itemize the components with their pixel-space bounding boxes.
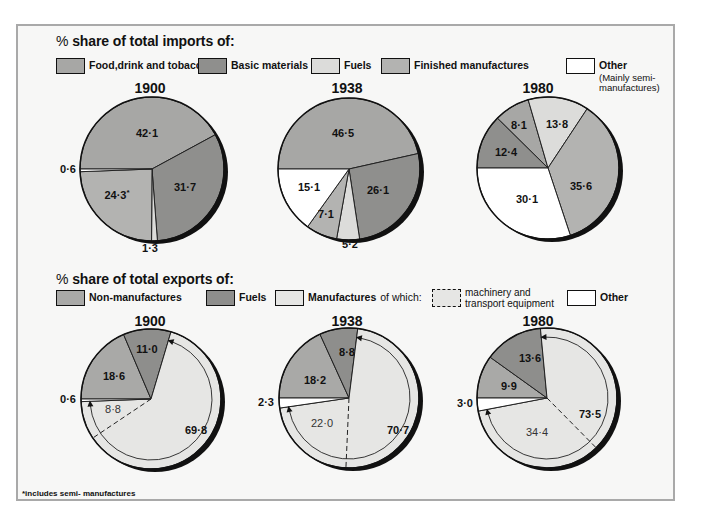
slice-label: 9·9 xyxy=(501,380,517,392)
slice-label: 18·6 xyxy=(103,370,125,382)
slice-label: 73·5 xyxy=(579,408,601,420)
machinery-label: 34·4 xyxy=(526,426,548,438)
slice-label: 12·4 xyxy=(495,146,518,158)
slice-label: 30·1 xyxy=(516,193,538,205)
slice-label: 13·8 xyxy=(546,118,568,130)
slice-label: 0·6 xyxy=(60,163,76,175)
slice-label: 42·1 xyxy=(136,127,158,139)
slice-label: 13·6 xyxy=(519,352,541,364)
slice-label: 0·6 xyxy=(60,393,76,405)
exports-pie-1980: 9·913·673·53·034·4 xyxy=(457,328,621,471)
slice-label: 31·7 xyxy=(174,181,196,193)
slice-label: 11·0 xyxy=(136,343,157,355)
imports-pie-1980: 12·48·113·835·630·1 xyxy=(477,97,623,242)
slice-label: 7·1 xyxy=(318,208,334,220)
slice-label: 8·8 xyxy=(339,346,355,358)
footnote: *includes semi- manufactures xyxy=(22,489,135,498)
machinery-label: 8·8 xyxy=(105,403,121,415)
slice-label: 2·3 xyxy=(258,396,274,408)
slice-label: 5·2 xyxy=(342,238,358,250)
slice-label: 70·7 xyxy=(387,424,409,436)
imports-pie-1938: 46·526·15·27·115·1 xyxy=(278,98,424,250)
slice-label: 46·5 xyxy=(332,127,354,139)
slice-label: 18·2 xyxy=(304,374,326,386)
slice-label: 26·1 xyxy=(367,184,389,196)
slice-label: 3·0 xyxy=(457,397,473,409)
imports-pie-1900: 42·131·71·324·3*0·6 xyxy=(60,97,228,254)
slice-finished xyxy=(80,169,152,241)
exports-pie-1938: 18·28·870·72·322·0 xyxy=(258,328,423,471)
exports-pie-1900: 18·611·069·80·68·8 xyxy=(60,329,225,472)
machinery-label: 22·0 xyxy=(311,417,333,429)
pie-charts: 42·131·71·324·3*0·646·526·15·27·115·112·… xyxy=(0,0,710,527)
slice-label: 35·6 xyxy=(570,180,592,192)
slice-basic xyxy=(349,154,420,240)
slice-label: 69·8 xyxy=(185,424,207,436)
slice-label: 8·1 xyxy=(511,119,527,131)
slice-label: 15·1 xyxy=(298,181,320,193)
slice-label: 1·3 xyxy=(142,242,158,254)
